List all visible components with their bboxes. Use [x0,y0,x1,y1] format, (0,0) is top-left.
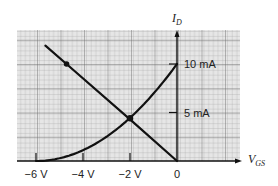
bias-line-marker [64,61,70,67]
Q-point [127,115,133,121]
y-tick-label: 5 mA [184,107,210,119]
y-tick-label: 10 mA [184,58,216,70]
x-tick-label: −2 V [119,168,143,180]
jfet-transfer-chart: −6 V−4 V−2 V0 5 mA10 mA ID VGS [0,0,278,186]
x-axis-label: VGS [248,152,265,168]
x-tick-label: −4 V [72,168,96,180]
y-axis-label: ID [171,11,182,27]
x-tick-label: −6 V [25,168,49,180]
x-tick-label: 0 [174,168,180,180]
